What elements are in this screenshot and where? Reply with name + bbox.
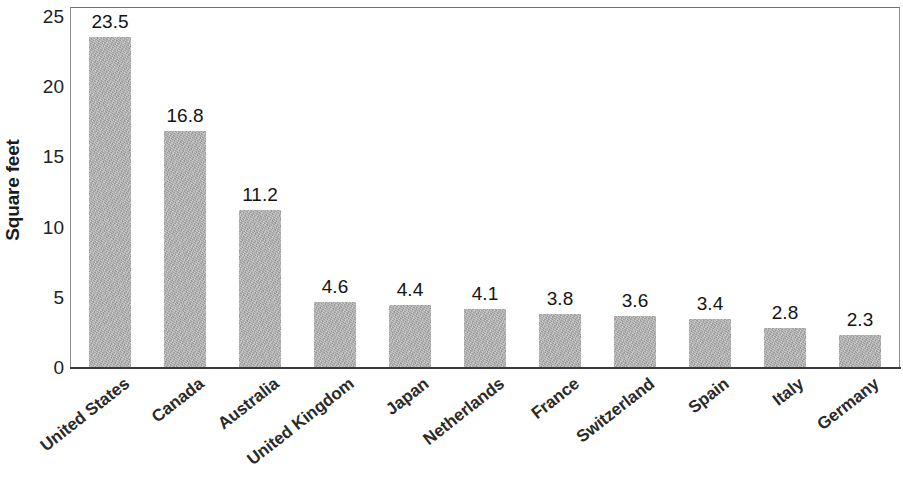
- bar-group: 16.8: [164, 6, 206, 367]
- bar[interactable]: [539, 314, 581, 367]
- bar-group: 3.4: [689, 6, 731, 367]
- bar-value-label: 16.8: [167, 106, 204, 125]
- y-axis-title-text: Square feet: [2, 139, 24, 240]
- bar-value-label: 4.4: [397, 280, 423, 299]
- bar-value-label: 2.3: [847, 310, 873, 329]
- y-axis-tick-label: 25: [28, 6, 64, 28]
- bar[interactable]: [614, 316, 656, 367]
- bar-group: 3.6: [614, 6, 656, 367]
- bar-group: 2.8: [764, 6, 806, 367]
- plot-area: 23.516.811.24.64.44.13.83.63.42.82.3: [70, 7, 900, 368]
- bar-group: 4.4: [389, 6, 431, 367]
- x-axis-tick-label: France: [527, 374, 583, 424]
- x-axis-tick-label: Netherlands: [419, 374, 508, 450]
- bar[interactable]: [89, 37, 131, 367]
- bar[interactable]: [764, 328, 806, 367]
- bar-value-label: 3.6: [622, 291, 648, 310]
- y-axis-tick-label: 0: [28, 357, 64, 379]
- bar-chart-figure: Square feet 2520151050 23.516.811.24.64.…: [0, 0, 903, 487]
- bar-group: 2.3: [839, 6, 881, 367]
- y-axis-tick-label: 10: [28, 217, 64, 239]
- x-axis-tick-label: Canada: [148, 374, 208, 427]
- x-axis-tick-label: Switzerland: [573, 374, 659, 447]
- y-axis-tick-label: 5: [28, 287, 64, 309]
- x-axis-tick-label: Spain: [684, 374, 732, 418]
- bar[interactable]: [464, 309, 506, 367]
- y-axis-title: Square feet: [0, 0, 26, 380]
- bar[interactable]: [314, 302, 356, 367]
- x-axis-tick-label: Germany: [813, 374, 883, 435]
- bar-value-label: 4.1: [472, 284, 498, 303]
- bar[interactable]: [164, 131, 206, 367]
- y-axis-tick-labels: 2520151050: [28, 0, 64, 487]
- bar-group: 23.5: [89, 6, 131, 367]
- bar-value-label: 11.2: [242, 185, 278, 204]
- x-axis-line: [70, 367, 901, 369]
- bar-group: 11.2: [239, 6, 281, 367]
- bar-group: 4.6: [314, 6, 356, 367]
- bar-group: 4.1: [464, 6, 506, 367]
- bar-group: 3.8: [539, 6, 581, 367]
- bar-value-label: 3.4: [697, 294, 723, 313]
- bar-value-label: 23.5: [92, 12, 129, 31]
- y-axis-tick-label: 20: [28, 76, 64, 98]
- y-axis-tick-label: 15: [28, 146, 64, 168]
- bar[interactable]: [239, 210, 281, 367]
- bar[interactable]: [689, 319, 731, 367]
- bar-value-label: 4.6: [322, 277, 348, 296]
- x-axis-tick-label: Japan: [382, 374, 433, 420]
- bar[interactable]: [839, 335, 881, 367]
- bar-value-label: 2.8: [772, 303, 798, 322]
- bar-value-label: 3.8: [547, 289, 573, 308]
- x-axis-tick-label: Australia: [214, 374, 283, 434]
- x-axis-tick-label: Italy: [769, 374, 808, 410]
- bar[interactable]: [389, 305, 431, 367]
